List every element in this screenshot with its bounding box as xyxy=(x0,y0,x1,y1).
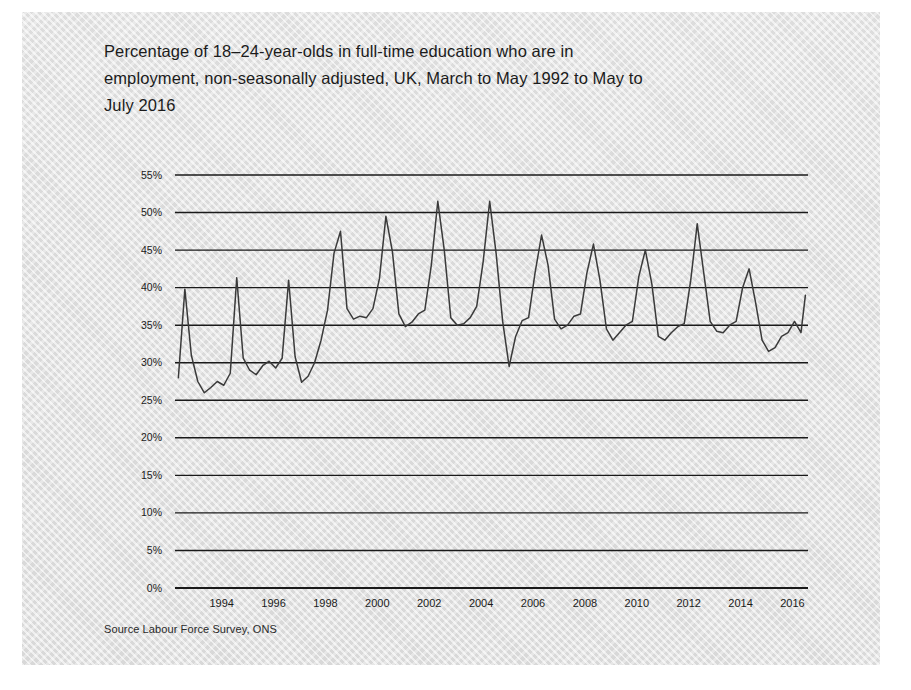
y-axis-tick-label: 15% xyxy=(141,469,162,481)
x-axis-tick-label: 2014 xyxy=(728,597,752,609)
x-axis-tick-label: 1994 xyxy=(209,597,233,609)
y-axis-tick-label: 50% xyxy=(141,206,162,218)
x-axis-tick-label: 2006 xyxy=(521,597,545,609)
x-axis-tick-label: 2012 xyxy=(676,597,700,609)
x-axis-tick-label: 1996 xyxy=(261,597,285,609)
y-axis-tick-label: 35% xyxy=(141,319,162,331)
y-axis-tick-label: 0% xyxy=(147,582,162,594)
x-axis-tick-label: 2000 xyxy=(365,597,389,609)
x-axis-tick-label: 2016 xyxy=(780,597,804,609)
y-axis-tick-label: 45% xyxy=(141,244,162,256)
y-axis-tick-label: 20% xyxy=(141,431,162,443)
y-axis-tick-label: 10% xyxy=(141,506,162,518)
y-axis-tick-label: 55% xyxy=(141,169,162,181)
y-axis-tick-label: 30% xyxy=(141,356,162,368)
source-note: Source Labour Force Survey, ONS xyxy=(104,623,277,635)
y-axis-tick-label: 40% xyxy=(141,281,162,293)
data-series-layer xyxy=(178,201,805,392)
gridlines xyxy=(175,175,808,588)
x-axis-tick-label: 1998 xyxy=(313,597,337,609)
series-line xyxy=(178,201,805,392)
x-axis-tick-label: 2004 xyxy=(469,597,493,609)
x-axis-tick-label: 2010 xyxy=(625,597,649,609)
x-axis-tick-label: 2008 xyxy=(573,597,597,609)
x-axis-tick-label: 2002 xyxy=(417,597,441,609)
line-chart: 0%5%10%15%20%25%30%35%40%45%50%55% 19941… xyxy=(0,0,911,690)
y-axis-tick-labels: 0%5%10%15%20%25%30%35%40%45%50%55% xyxy=(141,169,162,594)
y-axis-tick-label: 5% xyxy=(147,544,162,556)
y-axis-tick-label: 25% xyxy=(141,394,162,406)
x-axis-tick-labels: 1994199619982000200220042006200820102012… xyxy=(209,597,804,609)
chart-page: Percentage of 18–24-year-olds in full-ti… xyxy=(0,0,911,690)
